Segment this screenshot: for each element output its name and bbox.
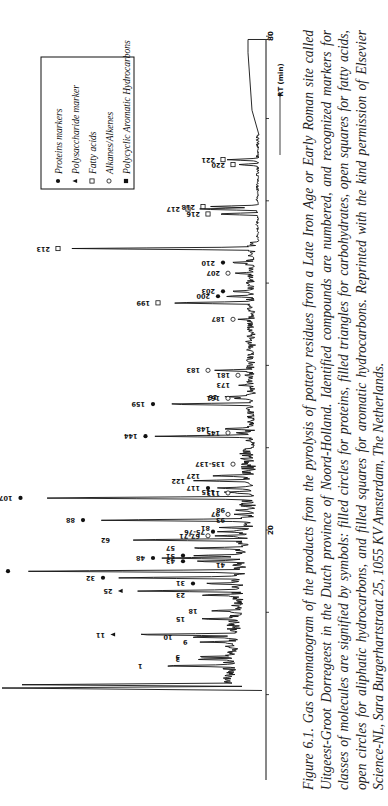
- open-circle-icon: [226, 491, 230, 495]
- open-circle-icon: [206, 534, 210, 538]
- peak-label-144: 144: [123, 432, 147, 440]
- legend-proteins: Proteins markers: [54, 108, 64, 183]
- peak-label-122: 122: [171, 477, 185, 485]
- filled-circle-icon: [18, 496, 22, 500]
- filled-triangle-icon: [110, 632, 115, 636]
- peak-number: 57: [166, 544, 175, 552]
- peak-number: 88: [65, 516, 75, 524]
- peak-label-159: 159: [131, 400, 155, 408]
- peak-number: 41: [215, 561, 225, 569]
- filled-square-icon: [124, 179, 128, 183]
- rt-axis: 20 80 RT (min): [266, 31, 285, 780]
- peak-annotations: 123910111518232531323541434851576267-717…: [0, 156, 240, 670]
- peak-label-88: 88: [65, 516, 85, 524]
- peak-number: 18: [188, 607, 198, 615]
- filled-circle-icon: [221, 289, 225, 293]
- peak-number: 207: [206, 269, 220, 277]
- peak-number: 203: [201, 287, 215, 295]
- peak-number: 25: [103, 587, 113, 595]
- peak-number: 210: [201, 259, 215, 267]
- peak-number: 159: [131, 400, 145, 408]
- filled-circle-icon: [6, 569, 10, 573]
- open-circle-icon: [226, 431, 230, 435]
- axis-title: RT (min): [277, 63, 285, 96]
- peak-label-173: 173: [216, 381, 230, 389]
- peak-label-207: 207: [206, 269, 230, 277]
- open-square-icon: [201, 204, 205, 208]
- legend-alkanes: Alkanes/Alkenes: [105, 111, 115, 183]
- peak-label-81: 81: [200, 524, 210, 532]
- filled-circle-icon: [181, 559, 185, 563]
- peak-number: 127: [186, 472, 200, 480]
- peak-label-3: 3: [175, 653, 180, 661]
- peak-label-210: 210: [201, 259, 225, 267]
- filled-circle-icon: [143, 434, 147, 438]
- open-circle-icon: [226, 271, 230, 275]
- peak-label-10: 10: [163, 633, 173, 641]
- open-square-icon: [156, 301, 160, 305]
- peak-label-18: 18: [188, 607, 198, 615]
- peak-number: 11: [95, 631, 105, 639]
- filled-circle-icon: [81, 518, 85, 522]
- filled-circle-icon: [221, 260, 225, 264]
- peak-number: 48: [135, 554, 145, 562]
- peak-label-57: 57: [166, 544, 175, 552]
- open-circle-icon: [226, 512, 230, 516]
- legend-label: Fatty acids: [88, 131, 98, 175]
- peak-number: 199: [136, 299, 150, 307]
- peak-label-187: 187: [211, 315, 235, 323]
- peak-label-9: 9: [183, 638, 188, 646]
- filled-circle-icon: [151, 556, 155, 560]
- peak-label-25: 25: [103, 587, 123, 595]
- legend: Proteins markersPolysaccharide markerFat…: [41, 40, 134, 189]
- peak-number: 31: [175, 579, 185, 587]
- open-circle-icon: [231, 317, 235, 321]
- open-square-icon: [90, 179, 94, 183]
- legend-label: Proteins markers: [54, 108, 64, 175]
- peak-label-62: 62: [101, 536, 110, 544]
- peak-label-31: 31: [175, 579, 195, 587]
- filled-circle-icon: [211, 530, 215, 534]
- open-circle-icon: [226, 396, 230, 400]
- peak-number: 173: [216, 381, 230, 389]
- peak-number: 144: [123, 432, 137, 440]
- rt-arrow: RT (min): [277, 63, 285, 155]
- peak-label-213: 213: [36, 245, 60, 253]
- peak-label-203: 203: [201, 287, 225, 295]
- open-square-icon: [206, 212, 210, 216]
- peak-number: 23: [176, 591, 185, 599]
- peak-label-199: 199: [136, 299, 160, 307]
- legend-polysaccharide: Polysaccharide marker: [71, 85, 81, 183]
- open-square-icon: [56, 246, 60, 250]
- peak-number: 32: [86, 574, 95, 582]
- filled-circle-icon: [216, 294, 220, 298]
- peak-label-41: 41: [215, 561, 225, 569]
- peak-label-35: 35: [0, 567, 10, 575]
- peak-label-16: 16: [208, 393, 218, 401]
- peak-label-23: 23: [176, 591, 185, 599]
- peak-number: 62: [101, 536, 110, 544]
- peak-label-127: 127: [186, 472, 200, 480]
- legend-pah: Polycyclic Aromatic Hydrocarbons: [122, 40, 132, 183]
- peak-number: 213: [36, 245, 50, 253]
- peak-number: 10: [163, 633, 173, 641]
- filled-circle-icon: [191, 581, 195, 585]
- legend-label: Alkanes/Alkenes: [105, 111, 115, 175]
- filled-triangle-icon: [118, 589, 123, 593]
- filled-circle-icon: [206, 486, 210, 490]
- peak-label-183: 183: [186, 366, 210, 374]
- filled-circle-icon: [151, 402, 155, 406]
- peak-number: 81: [200, 524, 210, 532]
- peak-number: 221: [201, 156, 215, 164]
- legend-label: Polysaccharide marker: [71, 85, 81, 175]
- open-square-icon: [231, 162, 235, 166]
- peak-number: 181: [216, 371, 230, 379]
- filled-circle-icon: [181, 553, 185, 557]
- peak-number: 183: [186, 366, 200, 374]
- peak-label-181: 181: [216, 371, 240, 379]
- peak-label-32: 32: [86, 574, 105, 582]
- peak-label-15: 15: [175, 615, 185, 623]
- peak-number: 148: [196, 425, 210, 433]
- peak-number: 117: [186, 484, 200, 492]
- peak-number: 217: [166, 205, 180, 213]
